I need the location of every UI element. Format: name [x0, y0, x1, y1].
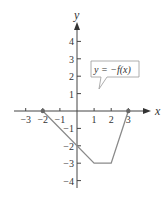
axes: x y — [14, 8, 161, 188]
callout-text: y = −f(x) — [93, 64, 131, 76]
graph: x y −3−2−1123 −4−3−2−11234 y = −f(x) — [0, 0, 167, 201]
endpoint-dot — [126, 109, 130, 113]
y-axis-arrow-icon — [74, 22, 80, 30]
x-tick-label: 2 — [109, 114, 114, 125]
y-axis-label: y — [73, 8, 80, 22]
y-tick-label: 4 — [69, 36, 74, 47]
x-tick-label: 1 — [92, 114, 97, 125]
y-tick-label: 2 — [69, 71, 74, 82]
x-tick-label: −3 — [20, 114, 31, 125]
y-ticks: −4−3−2−11234 — [63, 36, 81, 186]
y-tick-label: −4 — [63, 176, 74, 187]
y-tick-label: 1 — [69, 89, 74, 100]
endpoint-dot — [41, 109, 45, 113]
x-axis-arrow-icon — [143, 108, 151, 114]
y-tick-label: 3 — [69, 54, 74, 65]
y-tick-label: −3 — [63, 158, 74, 169]
y-tick-label: −2 — [63, 141, 74, 152]
callout: y = −f(x) — [91, 61, 139, 89]
x-axis-label: x — [154, 104, 161, 118]
